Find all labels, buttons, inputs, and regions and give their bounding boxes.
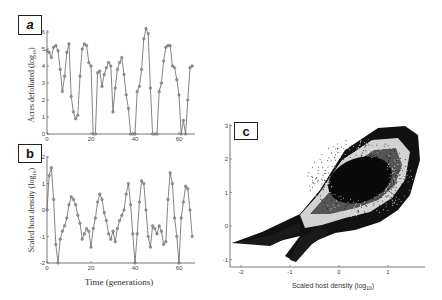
- y-tick-label: -1: [223, 257, 229, 263]
- data-point: [85, 227, 88, 230]
- data-point: [96, 72, 99, 75]
- data-point: [50, 166, 53, 169]
- data-point: [184, 133, 187, 136]
- panel-b-plot: -2-1012 0204060 Scaled host density (log…: [27, 154, 195, 287]
- data-point: [136, 90, 139, 93]
- data-point: [74, 117, 77, 120]
- data-point: [57, 262, 60, 265]
- data-point: [81, 238, 84, 241]
- data-point: [48, 51, 51, 54]
- data-point: [52, 46, 55, 49]
- data-point: [59, 238, 62, 241]
- data-point: [147, 32, 150, 35]
- panel-a-plot: 0123456 0204060 Acres defoliated (log10): [27, 27, 195, 142]
- data-point: [92, 227, 95, 230]
- data-point: [90, 246, 93, 249]
- data-point: [81, 48, 84, 51]
- data-point: [138, 201, 141, 204]
- data-point: [125, 94, 128, 97]
- data-point: [68, 203, 71, 206]
- data-point: [125, 193, 128, 196]
- data-point: [55, 243, 58, 246]
- data-point: [99, 70, 102, 73]
- data-point: [74, 203, 77, 206]
- data-point: [145, 209, 148, 212]
- data-point: [134, 262, 137, 265]
- data-point: [110, 65, 113, 68]
- data-point: [63, 75, 66, 78]
- data-point: [167, 198, 170, 201]
- data-point: [61, 90, 64, 93]
- x-tick-label: -2: [238, 269, 244, 275]
- data-point: [165, 46, 168, 49]
- data-point: [123, 73, 126, 76]
- data-point: [59, 68, 62, 71]
- x-tick-label: 0: [337, 269, 341, 275]
- data-point: [158, 90, 161, 93]
- data-point: [127, 182, 130, 185]
- data-point: [88, 61, 91, 64]
- data-point: [132, 233, 135, 236]
- data-point: [184, 185, 187, 188]
- data-point: [96, 201, 99, 204]
- data-point: [118, 219, 121, 222]
- data-point: [171, 65, 174, 68]
- data-point: [143, 182, 146, 185]
- data-point: [127, 107, 130, 110]
- x-tick-label: 20: [88, 136, 95, 142]
- panel-label-a: a: [18, 15, 42, 35]
- data-point: [156, 133, 159, 136]
- data-point: [107, 61, 110, 64]
- data-point: [160, 82, 163, 85]
- x-tick-label: -1: [287, 269, 293, 275]
- data-point: [48, 174, 51, 177]
- data-point: [178, 262, 181, 265]
- data-point: [134, 133, 137, 136]
- data-point: [63, 225, 66, 228]
- data-point: [116, 68, 119, 71]
- data-point: [160, 230, 163, 233]
- data-point: [140, 180, 143, 183]
- data-point: [121, 56, 124, 59]
- data-point: [70, 195, 73, 198]
- data-point: [173, 66, 176, 69]
- data-point: [77, 114, 80, 117]
- y-tick-label: 2: [42, 154, 46, 160]
- data-point: [77, 214, 80, 217]
- data-point: [105, 66, 108, 69]
- data-point: [112, 230, 115, 233]
- data-point: [136, 233, 139, 236]
- data-point: [55, 44, 58, 47]
- data-point: [129, 203, 132, 206]
- data-point: [79, 222, 82, 225]
- y-tick-label: 3: [42, 80, 46, 86]
- data-point: [182, 201, 185, 204]
- data-point: [149, 87, 152, 90]
- data-point: [191, 65, 194, 68]
- data-point: [189, 209, 192, 212]
- data-point: [114, 87, 117, 90]
- x-tick-label: 40: [132, 265, 139, 271]
- data-point: [140, 68, 143, 71]
- data-point: [162, 60, 165, 63]
- data-point: [103, 73, 106, 76]
- data-point: [85, 44, 88, 47]
- data-point: [72, 111, 75, 114]
- data-point: [169, 44, 172, 47]
- data-point: [156, 233, 159, 236]
- y-tick-label: 0: [42, 207, 46, 213]
- data-point: [149, 246, 152, 249]
- y-tick-label: 4: [42, 63, 46, 69]
- data-point: [83, 43, 86, 46]
- data-point: [138, 85, 141, 88]
- x-tick-label: 60: [176, 136, 183, 142]
- data-point: [121, 214, 124, 217]
- data-point: [191, 235, 194, 238]
- panel-label-c: c: [234, 122, 258, 140]
- data-point: [143, 38, 146, 41]
- x-tick-label: 0: [45, 136, 49, 142]
- data-point: [57, 49, 60, 52]
- data-point: [94, 217, 97, 220]
- data-point: [101, 85, 104, 88]
- data-point: [154, 227, 157, 230]
